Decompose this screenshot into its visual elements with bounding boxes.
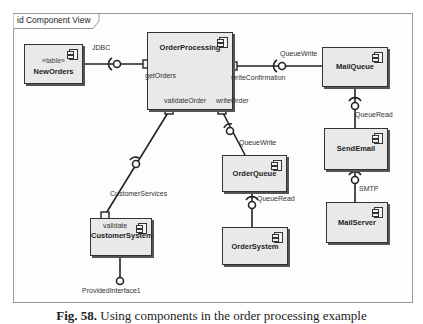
stereotype-label: «table» (25, 57, 82, 64)
queueread-ball-icon (352, 103, 359, 110)
label-provided-interface: ProvidedInterface1 (82, 287, 141, 294)
label-queuewrite-order: QueueWrite (239, 139, 276, 146)
component-customer-system[interactable]: validate CustomerSystem (90, 218, 152, 256)
label-queueread-mail: QueueRead (355, 111, 393, 118)
component-name: SendEmail (325, 144, 387, 153)
component-name: NewOrders (25, 67, 82, 76)
label-queueread-order: QueueRead (257, 195, 295, 202)
provided-interface-ball-icon (117, 278, 124, 285)
customerservices-ball-icon (133, 161, 140, 168)
order-queuewrite-ball-icon (227, 128, 234, 135)
caption-number: Fig. 58. (56, 308, 97, 323)
jdbc-ball-icon (114, 61, 121, 68)
label-validateorder: validateOrder (164, 97, 206, 104)
label-jdbc: JDBC (92, 44, 110, 51)
caption-text: Using components in the order processing… (100, 308, 366, 323)
component-mail-queue[interactable]: MailQueue (322, 47, 388, 87)
label-customerservices: CustomerServices (110, 190, 167, 197)
smtp-ball-icon (352, 177, 359, 184)
label-smtp: SMTP (359, 185, 378, 192)
label-writeconfirmation: writeConfirmation (231, 74, 285, 81)
component-order-system[interactable]: OrderSystem (222, 227, 288, 265)
queuewrite-ball-icon (279, 63, 286, 70)
figure-caption: Fig. 58. Using components in the order p… (0, 308, 423, 324)
component-name: CustomerSystem (91, 231, 151, 240)
label-queuewrite-mail: QueueWrite (280, 50, 317, 57)
component-new-orders[interactable]: «table» NewOrders (24, 44, 83, 84)
component-icon (374, 207, 383, 218)
component-icon (374, 133, 383, 144)
label-writeorder: writeOrder (216, 97, 249, 104)
component-order-queue[interactable]: OrderQueue (222, 155, 287, 192)
component-name: MailServer (327, 218, 387, 227)
component-send-email[interactable]: SendEmail (324, 128, 388, 170)
component-name: OrderProcessing (148, 43, 232, 52)
order-queueread-ball-icon (249, 202, 256, 209)
component-name: OrderQueue (223, 169, 286, 178)
component-name: OrderSystem (223, 242, 287, 251)
component-mail-server[interactable]: MailServer (326, 202, 388, 243)
port-label-validate: validate (103, 222, 127, 229)
component-name: MailQueue (323, 62, 387, 71)
label-getorders: getOrders (145, 72, 176, 79)
